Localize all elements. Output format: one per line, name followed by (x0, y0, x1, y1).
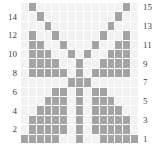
heatmap-cell (68, 59, 76, 68)
heatmap-cell (60, 41, 68, 50)
heatmap-cell (29, 125, 37, 134)
heatmap-cell (76, 59, 84, 68)
heatmap-cell (37, 69, 45, 78)
heatmap-cell (60, 78, 68, 87)
heatmap-cell (29, 135, 37, 144)
heatmap-cell (92, 78, 100, 87)
heatmap-cell (123, 59, 131, 68)
heatmap-cell (68, 97, 76, 106)
heatmap-cell (123, 135, 131, 144)
heatmap-cell (68, 22, 76, 31)
heatmap-cell (52, 22, 60, 31)
heatmap-cell (52, 50, 60, 59)
heatmap-cell (92, 12, 100, 21)
heatmap-cell (115, 78, 123, 87)
heatmap-cell (108, 41, 116, 50)
heatmap-cell (92, 97, 100, 106)
heatmap-cell (68, 88, 76, 97)
heatmap-cell (29, 106, 37, 115)
heatmap-cell (21, 22, 29, 31)
heatmap-cell (100, 31, 108, 40)
heatmap-cell (21, 125, 29, 134)
left-tick-10: 10 (0, 50, 20, 59)
left-tick-12: 12 (0, 31, 20, 40)
heatmap-cell (100, 106, 108, 115)
heatmap-cell (21, 31, 29, 40)
left-tick-4: 4 (0, 106, 20, 115)
left-tick-1 (0, 135, 20, 144)
heatmap-cell (52, 3, 60, 12)
heatmap-cell (131, 41, 139, 50)
heatmap-cell (115, 50, 123, 59)
heatmap-cell (115, 135, 123, 144)
heatmap-cell (84, 59, 92, 68)
heatmap-cell (37, 31, 45, 40)
heatmap-cell (21, 59, 29, 68)
heatmap-cell (52, 31, 60, 40)
left-axis: 1412108642 (0, 3, 20, 144)
heatmap-cell (84, 88, 92, 97)
left-tick-5 (0, 97, 20, 106)
heatmap-cell (76, 88, 84, 97)
heatmap-cell (37, 41, 45, 50)
heatmap-cell (37, 125, 45, 134)
heatmap-cell (100, 116, 108, 125)
heatmap-cell (52, 116, 60, 125)
left-tick-9 (0, 59, 20, 68)
heatmap-cell (68, 3, 76, 12)
heatmap-cell (52, 125, 60, 134)
heatmap-cell (92, 3, 100, 12)
heatmap-cell (60, 97, 68, 106)
heatmap-cell (45, 12, 53, 21)
heatmap-cell (108, 106, 116, 115)
heatmap-cell (45, 97, 53, 106)
heatmap-cell (37, 106, 45, 115)
heatmap-cell (45, 106, 53, 115)
heatmap-cell (60, 12, 68, 21)
heatmap-cell (84, 41, 92, 50)
heatmap-cell (123, 97, 131, 106)
right-tick-11: 11 (140, 41, 160, 50)
right-tick-13: 13 (140, 22, 160, 31)
heatmap-cell (37, 88, 45, 97)
heatmap-cell (68, 31, 76, 40)
heatmap-cell (37, 12, 45, 21)
left-tick-2: 2 (0, 125, 20, 134)
heatmap-cell (131, 12, 139, 21)
heatmap-cell (45, 125, 53, 134)
heatmap-cell (60, 59, 68, 68)
heatmap-cell (76, 106, 84, 115)
heatmap-cell (45, 135, 53, 144)
heatmap-cell (123, 78, 131, 87)
heatmap-cell (123, 88, 131, 97)
heatmap-cell (29, 69, 37, 78)
heatmap-cell (45, 41, 53, 50)
heatmap-cell (92, 106, 100, 115)
left-tick-8: 8 (0, 69, 20, 78)
heatmap-cell (45, 88, 53, 97)
heatmap-cell (123, 3, 131, 12)
heatmap-cell (92, 22, 100, 31)
heatmap-cell (108, 3, 116, 12)
heatmap-cell (92, 41, 100, 50)
heatmap-cell (123, 50, 131, 59)
heatmap-cell (115, 125, 123, 134)
heatmap-cell (92, 116, 100, 125)
heatmap-cell (100, 3, 108, 12)
heatmap-cell (108, 69, 116, 78)
heatmap-cell (60, 135, 68, 144)
heatmap-cell (52, 41, 60, 50)
heatmap-grid (21, 3, 139, 144)
heatmap-cell (123, 106, 131, 115)
heatmap-cell (76, 22, 84, 31)
heatmap-cell (131, 50, 139, 59)
heatmap-cell (29, 116, 37, 125)
heatmap-cell (29, 41, 37, 50)
heatmap-cell (68, 41, 76, 50)
heatmap-cell (100, 69, 108, 78)
heatmap-cell (100, 88, 108, 97)
heatmap-cell (68, 106, 76, 115)
heatmap-cell (52, 88, 60, 97)
heatmap-cell (76, 50, 84, 59)
heatmap-cell (37, 59, 45, 68)
